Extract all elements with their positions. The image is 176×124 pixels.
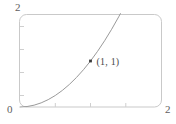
x-axis-max-label: 2 <box>165 104 171 115</box>
y-axis-ticks <box>20 27 24 96</box>
x-axis-ticks <box>55 103 126 107</box>
chart-figure: 2 0 2 (1, 1) <box>0 0 176 124</box>
y-axis-max-label: 2 <box>15 2 21 13</box>
origin-label: 0 <box>7 104 13 115</box>
data-point-marker <box>89 60 92 63</box>
data-point-label: (1, 1) <box>97 56 120 67</box>
plot-canvas <box>0 0 176 124</box>
